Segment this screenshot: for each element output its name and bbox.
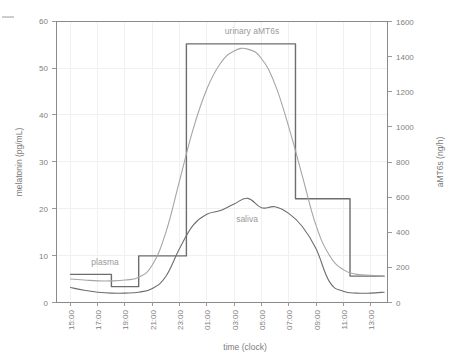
ytick-label-50: 50 — [39, 64, 48, 73]
series-line-urinary-amt6s — [71, 44, 385, 287]
y2tick-label-200: 200 — [396, 263, 410, 272]
y-axis-title: melatonin (pg/mL) — [14, 128, 24, 197]
y2tick-label-400: 400 — [396, 228, 410, 237]
xtick-label-9: 09:00 — [313, 309, 322, 330]
xtick-label-7: 05:00 — [258, 309, 267, 330]
xtick-label-0: 15:00 — [67, 309, 76, 330]
ytick-label-60: 60 — [39, 17, 48, 26]
ytick-label-20: 20 — [39, 205, 48, 214]
chart-container: 0 10 20 30 40 50 60 melatonin (pg/mL) 0 … — [0, 0, 463, 361]
xtick-label-10: 11:00 — [340, 309, 349, 329]
ytick-label-10: 10 — [39, 252, 48, 261]
y2tick-label-1600: 1600 — [396, 18, 414, 27]
chart-svg: 0 10 20 30 40 50 60 melatonin (pg/mL) 0 … — [0, 0, 463, 361]
ytick-label-0: 0 — [44, 299, 49, 308]
x-axis-title: time (clock) — [223, 342, 267, 352]
y2tick-label-1400: 1400 — [396, 53, 414, 62]
series-line-plasma — [71, 48, 385, 281]
y2tick-label-800: 800 — [396, 158, 410, 167]
right-axis-ticks — [388, 22, 392, 303]
xtick-label-8: 07:00 — [285, 309, 294, 330]
ytick-label-30: 30 — [39, 158, 48, 167]
left-axis-labels: 0 10 20 30 40 50 60 — [39, 17, 48, 308]
xtick-label-3: 21:00 — [149, 309, 158, 330]
series-line-saliva — [71, 198, 385, 293]
y2tick-label-600: 600 — [396, 193, 410, 202]
xtick-label-11: 13:00 — [367, 309, 376, 330]
y2-axis-title: aMT6s (ng/h) — [435, 137, 445, 188]
xtick-label-1: 17:00 — [94, 309, 103, 330]
xtick-label-2: 19:00 — [121, 309, 130, 330]
right-axis-labels: 0 200 400 600 800 1000 1200 1400 1600 — [396, 18, 414, 308]
series-label-urinary-amt6s: urinary aMT6s — [225, 26, 279, 36]
y2tick-label-0: 0 — [396, 299, 401, 308]
ytick-label-40: 40 — [39, 111, 48, 120]
series-label-plasma: plasma — [91, 257, 119, 267]
xtick-label-6: 03:00 — [231, 309, 240, 330]
x-axis-labels: 15:00 17:00 19:00 21:00 23:00 01:00 03:0… — [67, 309, 376, 330]
left-axis-ticks — [52, 21, 56, 303]
xtick-label-5: 01:00 — [203, 309, 212, 330]
y2tick-label-1000: 1000 — [396, 123, 414, 132]
xtick-label-4: 23:00 — [176, 309, 185, 330]
y2tick-label-1200: 1200 — [396, 88, 414, 97]
series-label-saliva: saliva — [236, 214, 258, 224]
